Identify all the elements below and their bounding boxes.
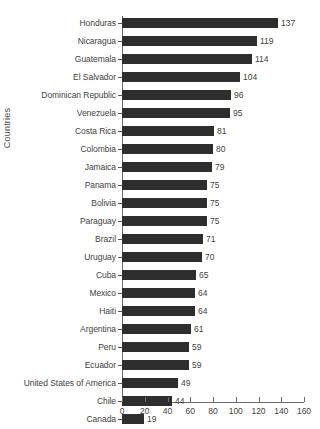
bar-value-label: 70 [205, 248, 214, 266]
bar-value-label: 119 [260, 32, 274, 50]
bar-value-label: 81 [217, 122, 226, 140]
bar-row: Jamaica79 [0, 158, 320, 176]
bar [122, 126, 214, 136]
x-axis-tick-label: 160 [289, 406, 319, 416]
bar-row: Panama75 [0, 176, 320, 194]
bar-value-label: 61 [194, 320, 203, 338]
bar-row: Paraguay75 [0, 212, 320, 230]
bar-value-label: 79 [215, 158, 224, 176]
x-axis-tick [190, 397, 191, 402]
bar-row: Argentina61 [0, 320, 320, 338]
bar [122, 90, 231, 100]
bar-value-label: 75 [210, 194, 219, 212]
bar-value-label: 104 [243, 68, 257, 86]
bar [122, 234, 203, 244]
x-axis-tick [236, 397, 237, 402]
bar-value-label: 114 [255, 50, 269, 68]
bar [122, 324, 191, 334]
x-axis-tick [259, 397, 260, 402]
category-label: Argentina [0, 320, 116, 338]
category-label: Panama [0, 176, 116, 194]
bar-value-label: 137 [281, 14, 295, 32]
bar-value-label: 64 [198, 302, 207, 320]
bar [122, 306, 195, 316]
category-label: Costa Rica [0, 122, 116, 140]
bar-value-label: 71 [206, 230, 215, 248]
bar-row: Mexico64 [0, 284, 320, 302]
bar-row: Cuba65 [0, 266, 320, 284]
category-label: Peru [0, 338, 116, 356]
plot-area: Honduras137Nicaragua119Guatemala114El Sa… [0, 8, 320, 394]
category-label: Venezuela [0, 104, 116, 122]
x-axis-tick [168, 397, 169, 402]
bar [122, 36, 257, 46]
bar-row: Peru59 [0, 338, 320, 356]
category-label: Canada [0, 410, 116, 428]
bar-row: El Salvador104 [0, 68, 320, 86]
bar-value-label: 59 [192, 338, 201, 356]
bar [122, 360, 189, 370]
bar-row: Dominican Republic96 [0, 86, 320, 104]
bar-row: Haiti64 [0, 302, 320, 320]
bar-value-label: 65 [199, 266, 208, 284]
category-label: Colombia [0, 140, 116, 158]
category-label: Jamaica [0, 158, 116, 176]
bar [122, 198, 207, 208]
bar-value-label: 75 [210, 212, 219, 230]
bar-value-label: 96 [234, 86, 243, 104]
bar-row: Guatemala114 [0, 50, 320, 68]
category-label: Honduras [0, 14, 116, 32]
category-label: Uruguay [0, 248, 116, 266]
bar-value-label: 64 [198, 284, 207, 302]
bar-value-label: 75 [210, 176, 219, 194]
category-label: Cuba [0, 266, 116, 284]
bar [122, 270, 196, 280]
bar [122, 54, 252, 64]
bar-row: Costa Rica81 [0, 122, 320, 140]
bar-row: Nicaragua119 [0, 32, 320, 50]
bar [122, 18, 278, 28]
category-label: El Salvador [0, 68, 116, 86]
bar [122, 252, 202, 262]
x-axis-tick [304, 397, 305, 402]
bar-row: Honduras137 [0, 14, 320, 32]
bar-value-label: 80 [216, 140, 225, 158]
category-label: Chile [0, 392, 116, 410]
bar [122, 108, 230, 118]
bar-row: Venezuela95 [0, 104, 320, 122]
bar [122, 216, 207, 226]
bar [122, 288, 195, 298]
bar [122, 180, 207, 190]
x-axis-tick [122, 397, 123, 402]
bar-row: Colombia80 [0, 140, 320, 158]
category-label: Brazil [0, 230, 116, 248]
bar-value-label: 49 [181, 374, 190, 392]
category-label: Mexico [0, 284, 116, 302]
bar-row: Bolivia75 [0, 194, 320, 212]
category-label: Haiti [0, 302, 116, 320]
bar-row: United States of America49 [0, 374, 320, 392]
bar-value-label: 95 [233, 104, 242, 122]
bar [122, 378, 178, 388]
bar [122, 144, 213, 154]
bar-value-label: 59 [192, 356, 201, 374]
bar [122, 162, 212, 172]
bar-row: Uruguay70 [0, 248, 320, 266]
bar [122, 72, 240, 82]
category-label: United States of America [0, 374, 116, 392]
x-axis-tick [281, 397, 282, 402]
bar-row: Brazil71 [0, 230, 320, 248]
x-axis-tick [213, 397, 214, 402]
category-label: Bolivia [0, 194, 116, 212]
bar [122, 342, 189, 352]
category-label: Ecuador [0, 356, 116, 374]
bar-chart: Countries Honduras137Nicaragua119Guatema… [0, 0, 320, 429]
bar [122, 396, 172, 406]
category-label: Paraguay [0, 212, 116, 230]
category-label: Dominican Republic [0, 86, 116, 104]
bar-row: Ecuador59 [0, 356, 320, 374]
x-axis-tick [145, 397, 146, 402]
category-label: Guatemala [0, 50, 116, 68]
category-label: Nicaragua [0, 32, 116, 50]
